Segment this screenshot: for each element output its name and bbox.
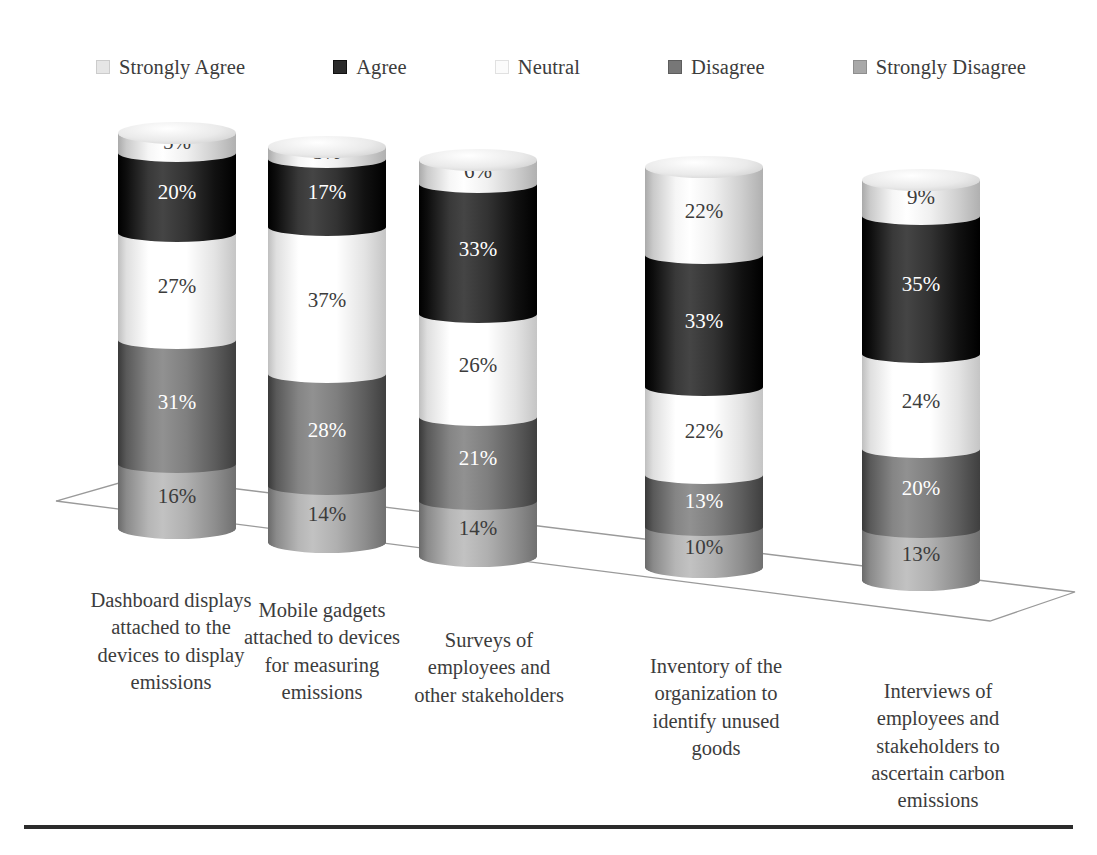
bar-segment[interactable]: 33%: [419, 184, 537, 315]
cylinder-top-cap: [862, 169, 980, 191]
bar-segment[interactable]: 20%: [118, 153, 236, 233]
segment-value-label: 37%: [308, 290, 347, 311]
plot-area: 5%20%27%31%16%Dashboard displaysattached…: [0, 0, 1097, 855]
cylinder-top-cap: [645, 156, 763, 178]
bar-column[interactable]: 6%33%26%21%14%: [419, 160, 537, 556]
segment-value-label: 16%: [158, 486, 197, 507]
segment-value-label: 31%: [158, 392, 197, 413]
bar-segment[interactable]: 24%: [862, 354, 980, 449]
category-label-line: organization to: [607, 680, 825, 707]
cylinder-bar: 3%17%37%28%14%: [268, 147, 386, 542]
segment-value-label: 24%: [902, 391, 941, 412]
bar-segment[interactable]: 26%: [419, 314, 537, 417]
segment-value-label: 33%: [685, 311, 724, 332]
segment-value-label: 20%: [158, 182, 197, 203]
segment-value-label: 20%: [902, 478, 941, 499]
segment-value-label: 13%: [902, 544, 941, 565]
category-label-line: goods: [607, 735, 825, 762]
segment-value-label: 14%: [459, 518, 498, 539]
segment-value-label: 17%: [308, 182, 347, 203]
segment-value-label: 26%: [459, 355, 498, 376]
cylinder-bar: 6%33%26%21%14%: [419, 160, 537, 556]
category-label-line: Surveys of: [378, 627, 600, 654]
cylinder-top-cap: [118, 122, 236, 144]
category-label-line: ascertain carbon: [820, 760, 1056, 787]
segment-value-label: 14%: [308, 504, 347, 525]
bar-column[interactable]: 3%17%37%28%14%: [268, 147, 386, 542]
category-label-line: other stakeholders: [378, 682, 600, 709]
bar-segment[interactable]: 16%: [118, 464, 236, 528]
cylinder-bar: 5%20%27%31%16%: [118, 133, 236, 528]
segment-value-label: 13%: [685, 491, 724, 512]
category-label-line: Inventory of the: [607, 653, 825, 680]
category-label-line: employees and: [820, 705, 1056, 732]
category-label-line: Interviews of: [820, 678, 1056, 705]
segment-value-label: 35%: [902, 274, 941, 295]
bar-column[interactable]: 22%33%22%13%10%: [645, 167, 763, 567]
segment-value-label: 33%: [459, 239, 498, 260]
segment-value-label: 27%: [158, 276, 197, 297]
bar-segment[interactable]: 33%: [645, 255, 763, 387]
category-label-line: Mobile gadgets: [208, 597, 436, 624]
category-axis-label: Interviews ofemployees andstakeholders t…: [820, 678, 1056, 814]
bar-column[interactable]: 9%35%24%20%13%: [862, 180, 980, 580]
bar-segment[interactable]: 17%: [268, 159, 386, 227]
bottom-divider-rule: [24, 825, 1073, 829]
segment-value-label: 28%: [308, 420, 347, 441]
category-label-line: emissions: [820, 787, 1056, 814]
bar-segment[interactable]: 35%: [862, 216, 980, 355]
segment-value-label: 22%: [685, 201, 724, 222]
bar-segment[interactable]: 27%: [118, 233, 236, 341]
category-axis-label: Inventory of theorganization toidentify …: [607, 653, 825, 762]
bar-segment[interactable]: 20%: [862, 449, 980, 528]
segment-value-label: 22%: [685, 421, 724, 442]
bar-segment[interactable]: 37%: [268, 227, 386, 375]
cylinder-bar: 9%35%24%20%13%: [862, 180, 980, 580]
category-label-line: identify unused: [607, 708, 825, 735]
category-label-line: stakeholders to: [820, 733, 1056, 760]
category-label-line: employees and: [378, 654, 600, 681]
cylinder-top-cap: [419, 149, 537, 171]
segment-value-label: 21%: [459, 448, 498, 469]
segment-value-label: 10%: [685, 537, 724, 558]
bar-segment[interactable]: 22%: [645, 167, 763, 255]
stacked-cylinder-chart: Strongly AgreeAgreeNeutralDisagreeStrong…: [0, 0, 1097, 855]
bar-segment[interactable]: 28%: [268, 374, 386, 486]
cylinder-top-cap: [268, 136, 386, 158]
bar-segment[interactable]: 21%: [419, 417, 537, 500]
bar-column[interactable]: 5%20%27%31%16%: [118, 133, 236, 528]
bar-segment[interactable]: 31%: [118, 340, 236, 464]
category-axis-label: Surveys ofemployees andother stakeholder…: [378, 627, 600, 709]
bar-segment[interactable]: 22%: [645, 387, 763, 475]
cylinder-bar: 22%33%22%13%10%: [645, 167, 763, 567]
